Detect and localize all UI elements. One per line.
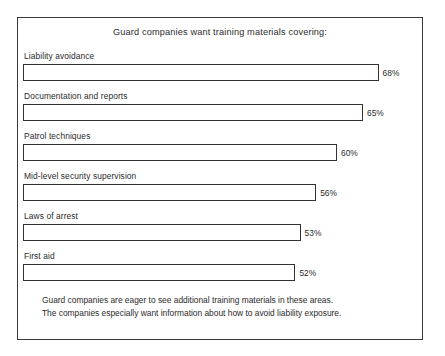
bar-value-label: 68% — [383, 65, 400, 81]
bar-category-label: Mid-level security supervision — [24, 169, 136, 184]
bar-value-label: 60% — [341, 145, 358, 161]
bar-category-label: Liability avoidance — [24, 49, 94, 64]
footer-note-line-1: Guard companies are eager to see additio… — [42, 294, 402, 307]
bar-rect — [23, 104, 363, 121]
bar-category-label: First aid — [24, 249, 55, 264]
bar-rect — [23, 224, 301, 241]
bar-group: Liability avoidance68% — [18, 49, 422, 89]
bar-category-label: Documentation and reports — [24, 89, 128, 104]
bar-chart-plot-area: Liability avoidance68%Documentation and … — [18, 49, 422, 291]
bar-group: Mid-level security supervision56% — [18, 169, 422, 209]
bar-value-label: 65% — [367, 105, 384, 121]
bar-rect — [23, 264, 295, 281]
chart-frame: Guard companies want training materials … — [17, 17, 423, 340]
bar-value-label: 52% — [299, 265, 316, 281]
footer-note: Guard companies are eager to see additio… — [42, 294, 402, 319]
bar-group: Patrol techniques60% — [18, 129, 422, 169]
chart-title: Guard companies want training materials … — [18, 27, 422, 37]
bar-value-label: 53% — [305, 225, 322, 241]
bar-category-label: Patrol techniques — [24, 129, 90, 144]
bar-rect — [23, 184, 316, 201]
bar-category-label: Laws of arrest — [24, 209, 78, 224]
footer-note-line-2: The companies especially want informatio… — [42, 307, 402, 320]
bar-rect — [23, 64, 379, 81]
bar-rect — [23, 144, 337, 161]
bar-group: First aid52% — [18, 249, 422, 289]
bar-group: Documentation and reports65% — [18, 89, 422, 129]
bar-value-label: 56% — [320, 185, 337, 201]
bar-group: Laws of arrest53% — [18, 209, 422, 249]
